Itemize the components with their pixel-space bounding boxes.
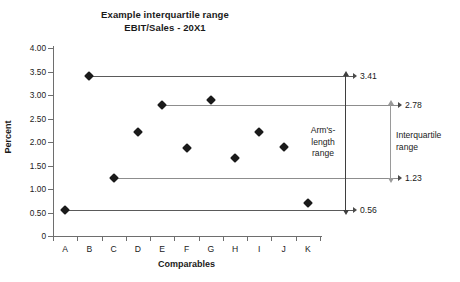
x-axis-tick	[77, 236, 78, 241]
x-axis-tick	[296, 236, 297, 241]
x-axis-tick	[126, 236, 127, 241]
data-point	[182, 143, 192, 153]
x-axis-tick-label: H	[223, 244, 247, 254]
x-axis-tick	[320, 236, 321, 241]
x-axis-tick	[247, 236, 248, 241]
y-axis-tick	[48, 119, 53, 120]
chart-container: Example interquartile range EBIT/Sales -…	[0, 0, 460, 282]
x-axis-tick-label: G	[199, 244, 223, 254]
range-label-interquartile-range: Interquartilerange	[396, 130, 460, 153]
x-axis-title: Comparables	[53, 259, 320, 269]
arrow-up-icon	[343, 71, 349, 76]
data-point	[279, 142, 289, 152]
x-axis-tick	[174, 236, 175, 241]
range-label-line: Interquartile	[396, 130, 460, 142]
y-axis-tick	[48, 213, 53, 214]
chart-title: Example interquartile range	[0, 8, 330, 21]
reference-line-upper-quartile	[162, 105, 398, 106]
arrow-up-icon	[388, 100, 394, 105]
x-axis-tick-label: J	[272, 244, 296, 254]
data-point	[254, 127, 264, 137]
reference-arrow-icon	[398, 102, 402, 108]
range-bar-arms-length-range	[345, 76, 346, 210]
x-axis-tick	[102, 236, 103, 241]
data-point	[206, 95, 216, 105]
reference-line-minimum	[65, 210, 353, 211]
reference-value-label-lower-quartile: 1.23	[405, 174, 422, 183]
y-axis-line	[53, 46, 54, 238]
y-axis-tick-label: 0	[4, 232, 46, 240]
arrow-down-icon	[343, 210, 349, 215]
y-axis-tick	[48, 189, 53, 190]
x-axis-tick	[223, 236, 224, 241]
x-axis-tick-label: K	[296, 244, 320, 254]
y-axis-tick	[48, 95, 53, 96]
reference-value-label-minimum: 0.56	[360, 205, 377, 214]
data-point	[60, 205, 70, 215]
x-axis-tick	[150, 236, 151, 241]
range-label-line: length	[305, 137, 341, 149]
chart-subtitle: EBIT/Sales - 20X1	[0, 21, 330, 34]
y-axis-tick-label: 0.50	[4, 209, 46, 217]
y-axis-tick-label: 2.50	[4, 115, 46, 123]
y-axis-tick-label: 1.00	[4, 185, 46, 193]
chart-title-block: Example interquartile range EBIT/Sales -…	[0, 8, 330, 34]
range-bar-interquartile-range	[390, 105, 391, 178]
data-point	[109, 173, 119, 183]
y-axis-tick	[48, 142, 53, 143]
x-axis-tick-label: E	[150, 244, 174, 254]
data-point	[157, 100, 167, 110]
x-axis-tick-label: C	[102, 244, 126, 254]
x-axis-tick-label: I	[247, 244, 271, 254]
data-point	[84, 71, 94, 81]
reference-line-maximum	[89, 76, 353, 77]
data-point	[230, 153, 240, 163]
data-point	[133, 127, 143, 137]
range-label-line: Arm's-	[305, 125, 341, 137]
y-axis-tick	[48, 48, 53, 49]
y-axis-tick-label: 3.00	[4, 91, 46, 99]
data-point	[303, 198, 313, 208]
x-axis-tick-label: D	[126, 244, 150, 254]
reference-value-label-upper-quartile: 2.78	[405, 101, 422, 110]
range-label-line: range	[305, 148, 341, 160]
reference-arrow-icon	[398, 175, 402, 181]
reference-value-label-maximum: 3.41	[360, 71, 377, 80]
x-axis-tick-label: B	[77, 244, 101, 254]
x-axis-tick	[199, 236, 200, 241]
x-axis-tick-label: A	[53, 244, 77, 254]
x-axis-tick-label: F	[175, 244, 199, 254]
y-axis-tick-label: 2.00	[4, 138, 46, 146]
range-label-arms-length-range: Arm's-lengthrange	[305, 125, 341, 160]
y-axis-tick-label: 3.50	[4, 68, 46, 76]
y-axis-tick-label: 4.00	[4, 44, 46, 52]
arrow-down-icon	[388, 178, 394, 183]
reference-line-lower-quartile	[114, 178, 398, 179]
y-axis-tick	[48, 166, 53, 167]
y-axis-tick-label: 1.50	[4, 162, 46, 170]
reference-arrow-icon	[353, 73, 357, 79]
range-label-line: range	[396, 142, 460, 154]
reference-arrow-icon	[353, 207, 357, 213]
y-axis-tick	[48, 72, 53, 73]
x-axis-line	[53, 236, 322, 237]
x-axis-tick	[53, 236, 54, 241]
x-axis-tick	[271, 236, 272, 241]
